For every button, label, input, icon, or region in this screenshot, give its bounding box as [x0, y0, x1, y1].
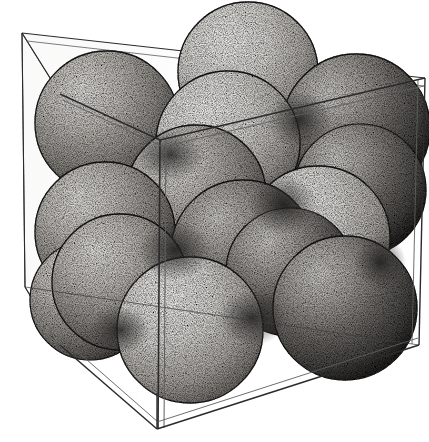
- sphere-packing-figure: Ink stipple drawing of sixteen close-pac…: [0, 0, 429, 442]
- sphere-cluster: [30, 2, 429, 403]
- sphere-packing-illustration: [0, 0, 429, 442]
